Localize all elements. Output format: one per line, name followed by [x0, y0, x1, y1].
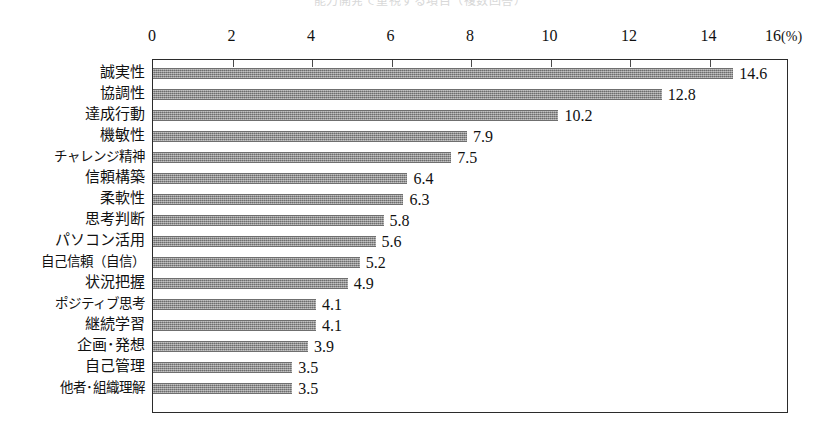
bar-row: 3.9	[153, 336, 787, 357]
bar-row: 6.4	[153, 168, 787, 189]
x-tick-label-2: 2	[228, 26, 236, 46]
category-label: 協調性	[0, 83, 149, 104]
chart-title: 能力開発で重視する項目（複数回答）	[0, 0, 840, 9]
bar-row: 3.5	[153, 378, 787, 399]
bar	[153, 383, 292, 394]
bar	[153, 236, 376, 247]
bar-value-label: 6.3	[409, 190, 429, 209]
bar-value-label: 12.8	[668, 85, 696, 104]
bar-row: 7.5	[153, 147, 787, 168]
category-label: 他者･組織理解	[0, 377, 149, 398]
x-tick-label-10: 10	[542, 26, 558, 46]
x-tick-label-8: 8	[466, 26, 474, 46]
cropped-title-strip: 能力開発で重視する項目（複数回答）	[0, 0, 840, 10]
category-axis-labels: 誠実性協調性達成行動機敏性チャレンジ精神信頼構築柔軟性思考判断パソコン活用自己信…	[0, 59, 149, 413]
bar-value-label: 4.1	[322, 295, 342, 314]
bar-value-label: 5.8	[390, 211, 410, 230]
category-label: 思考判断	[0, 209, 149, 230]
bar-value-label: 6.4	[413, 169, 433, 188]
x-axis-unit-label: (%)	[781, 29, 802, 44]
bar-value-label: 7.5	[457, 148, 477, 167]
bar-value-label: 3.9	[314, 337, 334, 356]
bar-row: 14.6	[153, 63, 787, 84]
x-tick-label-12: 12	[621, 26, 637, 46]
x-tick-label-4: 4	[307, 26, 315, 46]
category-label: 機敏性	[0, 125, 149, 146]
bar-row: 4.9	[153, 273, 787, 294]
category-label: 企画･発想	[0, 335, 149, 356]
category-label: パソコン活用	[0, 230, 149, 251]
category-label: 継続学習	[0, 314, 149, 335]
category-label: ポジティブ思考	[0, 293, 149, 314]
bar-row: 4.1	[153, 294, 787, 315]
bar	[153, 131, 467, 142]
category-label: 達成行動	[0, 104, 149, 125]
bar-value-label: 4.1	[322, 316, 342, 335]
bar	[153, 362, 292, 373]
category-label: 状況把握	[0, 272, 149, 293]
bar-value-label: 3.5	[298, 358, 318, 377]
bar-row: 5.2	[153, 252, 787, 273]
bar	[153, 152, 451, 163]
bar-value-label: 5.6	[382, 232, 402, 251]
bar	[153, 194, 403, 205]
category-label: 自己管理	[0, 356, 149, 377]
bar	[153, 341, 308, 352]
x-tick-label-6: 6	[387, 26, 395, 46]
category-label: チャレンジ精神	[0, 146, 149, 167]
bar-value-label: 7.9	[473, 127, 493, 146]
bar	[153, 278, 348, 289]
chart-plot-area: 14.612.810.27.97.56.46.35.85.65.24.94.14…	[152, 59, 788, 413]
bar-value-label: 10.2	[564, 106, 592, 125]
bar	[153, 68, 733, 79]
bar-row: 10.2	[153, 105, 787, 126]
bar	[153, 299, 316, 310]
bar-row: 4.1	[153, 315, 787, 336]
x-tick-label-0: 0	[148, 26, 156, 46]
bar-row: 7.9	[153, 126, 787, 147]
bar-value-label: 4.9	[354, 274, 374, 293]
x-axis-tick-labels: 0246810121416(%)	[0, 26, 840, 48]
category-label: 信頼構築	[0, 167, 149, 188]
bar-value-label: 14.6	[739, 64, 767, 83]
bar	[153, 89, 662, 100]
category-label: 自己信頼（自信）	[0, 251, 149, 272]
bar	[153, 257, 360, 268]
bar	[153, 215, 384, 226]
bar-row: 6.3	[153, 189, 787, 210]
bar-row: 5.8	[153, 210, 787, 231]
bar	[153, 173, 407, 184]
bar-value-label: 3.5	[298, 379, 318, 398]
bar-row: 3.5	[153, 357, 787, 378]
bar-value-label: 5.2	[366, 253, 386, 272]
bar	[153, 320, 316, 331]
x-tick-label-16: 16(%)	[765, 26, 802, 47]
bar	[153, 110, 558, 121]
bar-series: 14.612.810.27.97.56.46.35.85.65.24.94.14…	[153, 60, 787, 412]
x-tick-value: 16	[765, 27, 781, 44]
category-label: 誠実性	[0, 62, 149, 83]
category-label: 柔軟性	[0, 188, 149, 209]
bar-row: 12.8	[153, 84, 787, 105]
bar-row: 5.6	[153, 231, 787, 252]
x-tick-label-14: 14	[701, 26, 717, 46]
